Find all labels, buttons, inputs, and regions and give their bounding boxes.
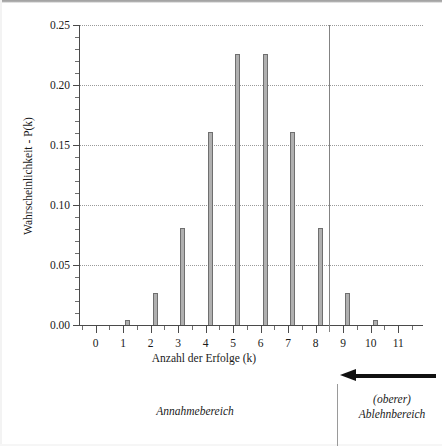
bar bbox=[318, 228, 323, 325]
y-axis-tick-label: 0.20 bbox=[50, 79, 70, 91]
x-axis-tick-minor bbox=[219, 326, 220, 330]
y-axis-tick-label: 0.25 bbox=[50, 19, 70, 31]
y-axis-tick-minor bbox=[75, 37, 79, 38]
x-axis-tick-major bbox=[371, 326, 372, 333]
x-axis-tick-minor bbox=[109, 326, 110, 330]
y-axis-tick-label: 0.10 bbox=[50, 199, 70, 211]
y-axis-tick-minor bbox=[75, 229, 79, 230]
x-axis-tick-label: 11 bbox=[393, 337, 404, 349]
y-axis-line bbox=[79, 25, 80, 326]
x-axis-title: Anzahl der Erfolge (k) bbox=[79, 352, 329, 364]
bar bbox=[263, 54, 268, 325]
y-axis-title: Wahrscheinlichkeit - P(k) bbox=[18, 25, 38, 326]
y-axis-tick-label: 0.05 bbox=[50, 259, 70, 271]
x-axis-tick-major bbox=[261, 326, 262, 333]
y-axis-tick-minor bbox=[75, 133, 79, 134]
gridline bbox=[80, 25, 423, 26]
gridline bbox=[80, 265, 423, 266]
y-axis-tick-major bbox=[73, 145, 79, 146]
region-divider-lower bbox=[337, 384, 338, 446]
y-axis-tick-minor bbox=[75, 121, 79, 122]
y-axis-tick-minor bbox=[75, 181, 79, 182]
rejection-arrow-icon bbox=[340, 369, 436, 382]
y-axis-tick-minor bbox=[75, 157, 79, 158]
y-axis-tick-major bbox=[73, 325, 79, 326]
y-axis-tick-minor bbox=[75, 49, 79, 50]
bar bbox=[153, 293, 158, 325]
x-axis-tick-minor bbox=[192, 326, 193, 330]
rejection-region-label-line2: Ablehnbereich bbox=[344, 407, 440, 422]
x-axis-tick-major bbox=[178, 326, 179, 333]
y-axis-tick-major bbox=[73, 25, 79, 26]
y-axis-tick-minor bbox=[75, 61, 79, 62]
x-axis-tick-label: 5 bbox=[230, 337, 236, 349]
x-axis-tick-major bbox=[233, 326, 234, 333]
gridline bbox=[80, 145, 423, 146]
y-axis-tick-minor bbox=[75, 289, 79, 290]
y-axis-tick-minor bbox=[75, 193, 79, 194]
x-axis-tick-minor bbox=[164, 326, 165, 330]
y-axis-tick-minor bbox=[75, 73, 79, 74]
plot-area: 0.000.050.100.150.200.25 01234567891011 bbox=[79, 25, 423, 326]
x-axis-tick-major bbox=[288, 326, 289, 333]
x-axis-tick-label: 2 bbox=[148, 337, 154, 349]
x-axis-tick-minor bbox=[412, 326, 413, 330]
y-axis-tick-minor bbox=[75, 109, 79, 110]
x-axis-tick-major bbox=[123, 326, 124, 333]
x-axis-tick-major bbox=[151, 326, 152, 333]
x-axis-tick-major bbox=[316, 326, 317, 333]
x-axis-tick-major bbox=[206, 326, 207, 333]
y-axis-tick-minor bbox=[75, 277, 79, 278]
region-divider-line bbox=[329, 25, 330, 332]
x-axis-tick-label: 6 bbox=[258, 337, 264, 349]
x-axis-tick-label: 9 bbox=[340, 337, 346, 349]
x-axis-tick-minor bbox=[302, 326, 303, 330]
y-axis-tick-minor bbox=[75, 217, 79, 218]
bar bbox=[208, 132, 213, 325]
gridline bbox=[80, 85, 423, 86]
x-axis-tick-label: 7 bbox=[285, 337, 291, 349]
rejection-region-label: (oberer) Ablehnbereich bbox=[344, 392, 440, 421]
x-axis-tick-minor bbox=[247, 326, 248, 330]
y-axis-tick-major bbox=[73, 265, 79, 266]
x-axis-tick-major bbox=[343, 326, 344, 333]
y-axis-tick-minor bbox=[75, 301, 79, 302]
acceptance-region-label: Annahmebereich bbox=[110, 404, 280, 419]
x-axis-tick-minor bbox=[274, 326, 275, 330]
scan-edge-top bbox=[0, 0, 442, 3]
rejection-region-label-line1: (oberer) bbox=[344, 392, 440, 407]
x-axis-tick-label: 4 bbox=[203, 337, 209, 349]
bar bbox=[235, 54, 240, 325]
bar bbox=[373, 320, 378, 325]
arrow-shaft bbox=[354, 374, 436, 378]
bar bbox=[345, 293, 350, 325]
y-axis-tick-major bbox=[73, 85, 79, 86]
x-axis-tick-major bbox=[398, 326, 399, 333]
y-axis-tick-minor bbox=[75, 169, 79, 170]
gridline bbox=[80, 205, 423, 206]
y-axis-tick-minor bbox=[75, 97, 79, 98]
x-axis-tick-minor bbox=[384, 326, 385, 330]
y-axis-title-text: Wahrscheinlichkeit - P(k) bbox=[22, 117, 34, 235]
y-axis-tick-label: 0.15 bbox=[50, 139, 70, 151]
chart-page: Wahrscheinlichkeit - P(k) 0.000.050.100.… bbox=[0, 0, 442, 446]
x-axis-tick-minor bbox=[137, 326, 138, 330]
x-axis-tick-minor bbox=[82, 326, 83, 330]
y-axis-tick-label: 0.00 bbox=[50, 319, 70, 331]
x-axis-tick-label: 3 bbox=[175, 337, 181, 349]
y-axis-tick-minor bbox=[75, 313, 79, 314]
x-axis-tick-label: 0 bbox=[93, 337, 99, 349]
scan-edge-left bbox=[0, 0, 2, 446]
y-axis-tick-major bbox=[73, 205, 79, 206]
x-axis-tick-major bbox=[96, 326, 97, 333]
x-axis-tick-label: 10 bbox=[365, 337, 377, 349]
y-axis-tick-minor bbox=[75, 253, 79, 254]
x-axis-tick-label: 8 bbox=[313, 337, 319, 349]
bar bbox=[180, 228, 185, 325]
bar bbox=[125, 320, 130, 325]
x-axis-tick-label: 1 bbox=[120, 337, 126, 349]
y-axis-tick-minor bbox=[75, 241, 79, 242]
bar bbox=[290, 132, 295, 325]
x-axis-tick-minor bbox=[357, 326, 358, 330]
